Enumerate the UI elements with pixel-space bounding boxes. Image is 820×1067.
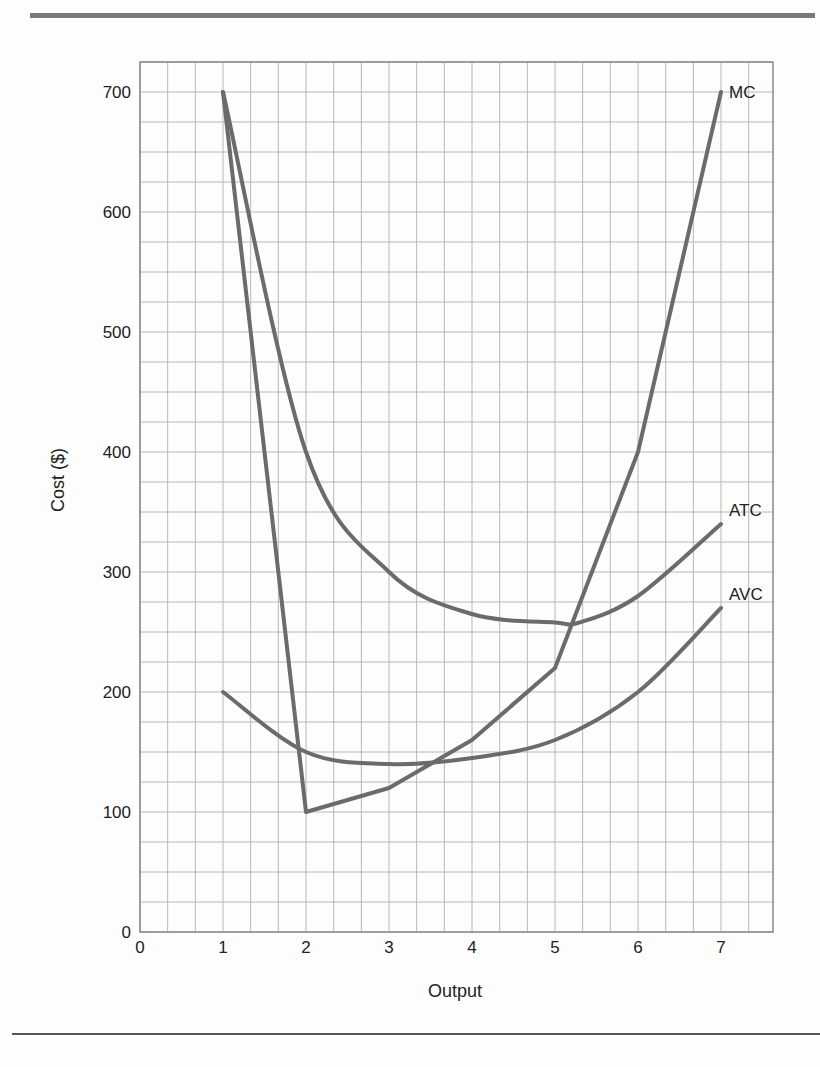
series-label-mc: MC: [729, 83, 755, 102]
series-label-atc: ATC: [729, 501, 762, 520]
y-tick-label: 0: [122, 923, 131, 942]
x-tick-label: 3: [384, 938, 393, 957]
cost-curves-chart: 0100200300400500600700 01234567 Cost ($)…: [0, 0, 820, 1067]
x-tick-label: 2: [301, 938, 310, 957]
y-axis-title: Cost ($): [48, 448, 68, 512]
x-tick-label: 6: [633, 938, 642, 957]
y-tick-label: 400: [103, 443, 131, 462]
y-tick-label: 300: [103, 563, 131, 582]
y-tick-label: 700: [103, 83, 131, 102]
series-label-avc: AVC: [729, 585, 763, 604]
x-axis-title: Output: [428, 981, 482, 1001]
y-tick-label: 500: [103, 323, 131, 342]
bottom-rule: [12, 1033, 820, 1035]
x-tick-label: 4: [467, 938, 476, 957]
series-labels: MCATCAVC: [729, 83, 763, 604]
y-axis-ticks: 0100200300400500600700: [103, 83, 131, 942]
x-tick-label: 5: [550, 938, 559, 957]
x-tick-label: 0: [135, 938, 144, 957]
x-tick-label: 1: [218, 938, 227, 957]
x-axis-ticks: 01234567: [135, 938, 725, 957]
y-tick-label: 100: [103, 803, 131, 822]
y-tick-label: 200: [103, 683, 131, 702]
y-tick-label: 600: [103, 203, 131, 222]
x-tick-label: 7: [716, 938, 725, 957]
